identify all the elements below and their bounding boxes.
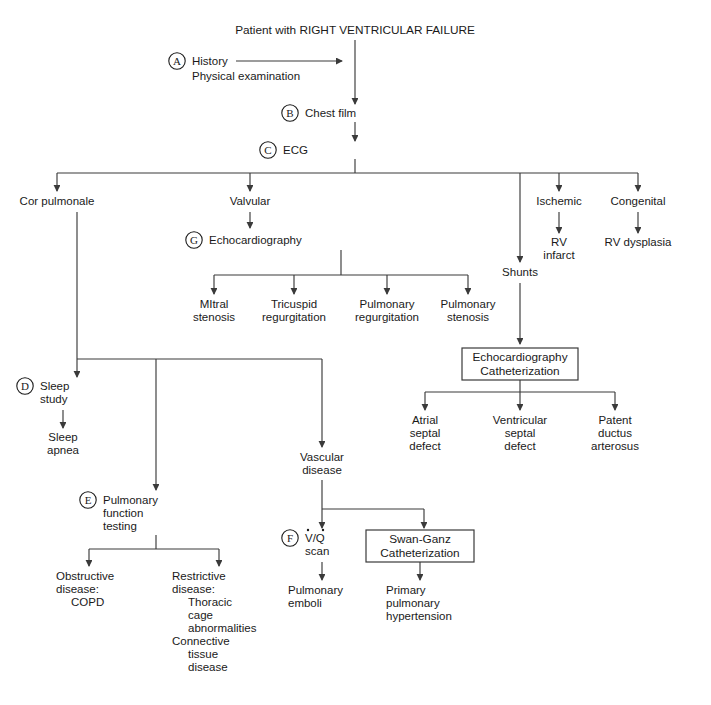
marker-b: B	[282, 105, 298, 121]
vq-scan-label-line1: V/Q	[305, 532, 325, 544]
pulmonary-regurgitation-label-line2: regurgitation	[355, 311, 419, 323]
restrictive-label-line2: disease:	[172, 583, 215, 595]
echo-cath-box-line2: Catheterization	[480, 364, 559, 378]
obstructive-label-line2: disease:	[56, 583, 99, 595]
flowchart-svg: Patient with RIGHT VENTRICULAR FAILURE A…	[0, 0, 711, 705]
rv-infarct-label-line1: RV	[551, 236, 567, 248]
pulmonary-emboli-label-line2: emboli	[288, 597, 322, 609]
vascular-disease-label-line1: Vascular	[300, 451, 344, 463]
ventricular-septal-defect-line3: defect	[504, 440, 536, 452]
tricuspid-regurgitation-label-line1: Tricuspid	[271, 298, 317, 310]
v-dot-icon	[307, 529, 309, 531]
mitral-stenosis-label-line1: MItral	[200, 298, 229, 310]
patent-ductus-line1: Patent	[598, 414, 632, 426]
vq-scan-label-line2: scan	[305, 545, 329, 557]
ecg-label: ECG	[283, 144, 308, 156]
shunts-label: Shunts	[502, 266, 538, 278]
marker-d: D	[17, 378, 33, 394]
marker-f: F	[282, 530, 298, 546]
mitral-stenosis-label-line2: stenosis	[193, 311, 235, 323]
tricuspid-regurgitation-label-line2: regurgitation	[262, 311, 326, 323]
sleep-study-label-line2: study	[40, 393, 68, 405]
physical-examination-label: Physical examination	[192, 70, 300, 82]
echo-cath-box-line1: Echocardiography	[472, 350, 567, 364]
ventricular-septal-defect-line2: septal	[505, 427, 536, 439]
sleep-study-label-line1: Sleep	[40, 380, 69, 392]
marker-e: E	[80, 492, 96, 508]
flowchart-canvas: Patient with RIGHT VENTRICULAR FAILURE A…	[0, 0, 711, 705]
ischemic-label: Ischemic	[536, 195, 582, 207]
echo-cath-box: Echocardiography Catheterization	[462, 348, 578, 380]
pulmonary-stenosis-label-line1: Pulmonary	[441, 298, 496, 310]
echocardiography-label: Echocardiography	[209, 234, 302, 246]
marker-f-letter: F	[287, 532, 293, 544]
atrial-septal-defect-line2: septal	[410, 427, 441, 439]
primary-ph-label-line1: Primary	[386, 584, 426, 596]
restrictive-label-line5: abnormalities	[188, 622, 257, 634]
root-label: Patient with RIGHT VENTRICULAR FAILURE	[235, 23, 475, 37]
sleep-apnea-label-line2: apnea	[47, 444, 80, 456]
pulmonary-emboli-label-line1: Pulmonary	[288, 584, 343, 596]
marker-b-letter: B	[286, 107, 293, 119]
q-dot-icon	[322, 529, 324, 531]
pulmonary-regurgitation-label-line1: Pulmonary	[360, 298, 415, 310]
swan-ganz-box-line1: Swan-Ganz	[389, 532, 451, 546]
primary-ph-label-line3: hypertension	[386, 610, 452, 622]
atrial-septal-defect-line1: Atrial	[412, 414, 438, 426]
marker-a-letter: A	[173, 55, 181, 67]
sleep-apnea-label-line1: Sleep	[48, 431, 77, 443]
vascular-disease-label-line2: disease	[302, 464, 342, 476]
ventricular-septal-defect-line1: Ventricular	[493, 414, 548, 426]
patent-ductus-line2: ductus	[598, 427, 632, 439]
pft-label-line3: testing	[103, 520, 137, 532]
congenital-label: Congenital	[611, 195, 666, 207]
obstructive-label-line1: Obstructive	[56, 570, 114, 582]
marker-g: G	[186, 232, 202, 248]
primary-ph-label-line2: pulmonary	[386, 597, 440, 609]
marker-c: C	[260, 142, 276, 158]
marker-d-letter: D	[21, 380, 29, 392]
patent-ductus-line3: arterosus	[591, 440, 639, 452]
marker-a: A	[169, 53, 185, 69]
history-label: History	[192, 55, 228, 67]
obstructive-label-line3: COPD	[71, 596, 104, 608]
restrictive-label-line7: tissue	[188, 648, 218, 660]
restrictive-label-line3: Thoracic	[188, 596, 232, 608]
atrial-septal-defect-line3: defect	[409, 440, 441, 452]
chest-film-label: Chest film	[305, 107, 356, 119]
marker-g-letter: G	[190, 234, 198, 246]
pft-label-line2: function	[103, 507, 143, 519]
rv-dysplasia-label: RV dysplasia	[605, 236, 673, 248]
restrictive-label-line6: Connective	[172, 635, 230, 647]
marker-c-letter: C	[264, 144, 271, 156]
pft-label-line1: Pulmonary	[103, 494, 158, 506]
swan-ganz-box: Swan-Ganz Catheterization	[366, 530, 474, 562]
cor-pulmonale-label: Cor pulmonale	[20, 195, 95, 207]
marker-e-letter: E	[85, 494, 92, 506]
restrictive-label-line8: disease	[188, 661, 228, 673]
rv-infarct-label-line2: infarct	[543, 249, 575, 261]
pulmonary-stenosis-label-line2: stenosis	[447, 311, 489, 323]
restrictive-label-line4: cage	[188, 609, 213, 621]
swan-ganz-box-line2: Catheterization	[380, 546, 459, 560]
valvular-label: Valvular	[230, 195, 271, 207]
restrictive-label-line1: Restrictive	[172, 570, 226, 582]
